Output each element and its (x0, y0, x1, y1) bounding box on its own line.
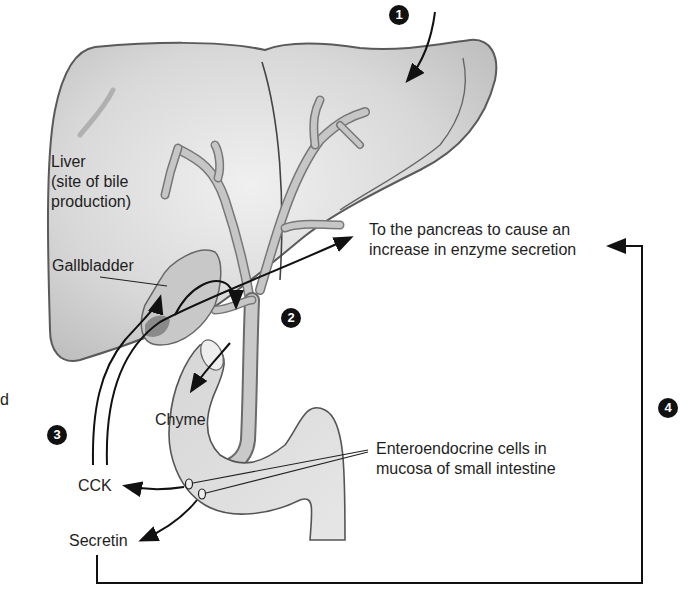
step-badge-2: 2 (281, 308, 301, 328)
liver-label-line1: Liver (51, 152, 86, 172)
step-badge-4: 4 (658, 398, 678, 418)
cck-label: CCK (78, 476, 112, 496)
digestive-diagram (0, 0, 696, 611)
pancreas-label-line1: To the pancreas to cause an (369, 220, 570, 240)
enteroendocrine-label-line1: Enteroendocrine cells in (376, 439, 547, 459)
step-badge-3: 3 (47, 425, 67, 445)
chyme-label: Chyme (155, 410, 206, 430)
step-badge-1: 1 (389, 5, 409, 25)
liver-label-line3: production) (51, 192, 131, 212)
enteroendocrine-label-line2: mucosa of small intestine (376, 459, 556, 479)
gallbladder-label: Gallbladder (52, 256, 134, 276)
pancreas-label-line2: increase in enzyme secretion (369, 240, 576, 260)
liver-label-line2: (site of bile (51, 172, 128, 192)
secretin-label: Secretin (69, 531, 128, 551)
cut-off-label-fragment: d (0, 390, 9, 410)
